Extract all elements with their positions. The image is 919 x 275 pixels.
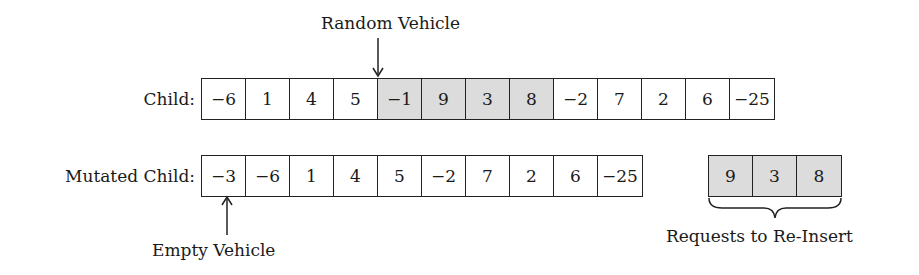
array-cell: −3 <box>202 156 246 196</box>
requests-to-reinsert-label: Requests to Re-Insert <box>666 226 853 246</box>
array-cell: −2 <box>422 156 466 196</box>
random-vehicle-label: Random Vehicle <box>321 13 460 33</box>
array-cell: 2 <box>642 79 686 119</box>
array-cell: 8 <box>797 156 841 196</box>
up-arrow-icon <box>217 197 237 237</box>
array-cell: −6 <box>202 79 246 119</box>
child-label: Child: <box>110 78 195 120</box>
array-cell: 2 <box>510 156 554 196</box>
array-cell: −2 <box>554 79 598 119</box>
array-cell: 7 <box>466 156 510 196</box>
array-cell: 8 <box>510 79 554 119</box>
mutated-child-array: −3−6145−2726−25 <box>201 155 643 197</box>
array-cell: 1 <box>246 79 290 119</box>
array-cell: −25 <box>730 79 774 119</box>
array-cell: 3 <box>466 79 510 119</box>
array-cell: 5 <box>378 156 422 196</box>
child-array: −6145−1938−2726−25 <box>201 78 775 120</box>
array-cell: 5 <box>334 79 378 119</box>
array-cell: 4 <box>334 156 378 196</box>
reinsert-array: 938 <box>708 155 842 197</box>
array-cell: 3 <box>753 156 797 196</box>
array-cell: 4 <box>290 79 334 119</box>
array-cell: 6 <box>554 156 598 196</box>
array-cell: −25 <box>598 156 642 196</box>
array-cell: 7 <box>598 79 642 119</box>
mutated-child-label: Mutated Child: <box>20 155 195 197</box>
underbrace-icon <box>708 198 842 222</box>
array-cell: 6 <box>686 79 730 119</box>
array-cell: 9 <box>709 156 753 196</box>
array-cell: 9 <box>422 79 466 119</box>
empty-vehicle-label: Empty Vehicle <box>152 240 275 260</box>
array-cell: 1 <box>290 156 334 196</box>
down-arrow-icon <box>368 38 388 78</box>
array-cell: −6 <box>246 156 290 196</box>
array-cell: −1 <box>378 79 422 119</box>
